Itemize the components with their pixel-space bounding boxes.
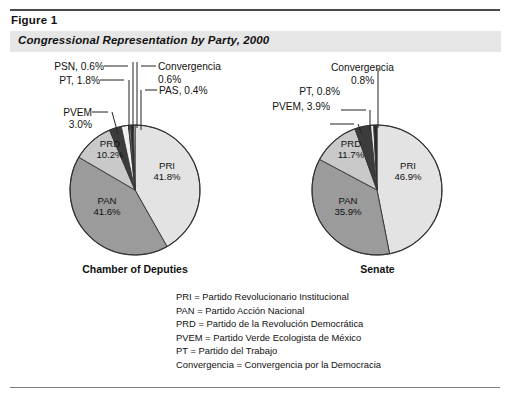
figure-container: Figure 1 Congressional Representation by… <box>0 0 509 400</box>
legend-item: PT = Partido del Trabajo <box>176 344 381 358</box>
slice-label-pri-senate: PRI 46.9% <box>381 161 435 182</box>
legend-list: PRI = Partido Revolucionario Institucion… <box>176 290 381 372</box>
slice-label-prd-senate: PRD 11.7% <box>325 139 377 160</box>
slice-name: PRI <box>400 160 416 171</box>
slice-value: 10.2% <box>96 149 123 160</box>
callout-convergencia-left-value: 0.6% <box>158 74 181 86</box>
chart-caption-chamber: Chamber of Deputies <box>60 263 210 275</box>
legend-item: PAN = Partido Acción Nacional <box>176 304 381 318</box>
slice-label-prd-left: PRD 10.2% <box>84 139 136 160</box>
slice-label-pan-senate: PAN 35.9% <box>320 196 376 217</box>
slice-value: 11.7% <box>338 149 365 160</box>
slice-name: PRD <box>341 138 361 149</box>
slice-name: PRI <box>159 160 175 171</box>
slice-value: 41.8% <box>153 171 180 182</box>
callout-pt-left: PT, 1.8% <box>20 75 100 87</box>
legend-item: PRD = Partido de la Revolución Democráti… <box>176 317 381 331</box>
slice-value: 46.9% <box>394 171 421 182</box>
callout-convergencia-senate-value: 0.8% <box>351 75 374 87</box>
legend-item: PRI = Partido Revolucionario Institucion… <box>176 290 381 304</box>
slice-label-pan-left: PAN 41.6% <box>79 196 135 217</box>
chart-caption-senate: Senate <box>305 263 450 275</box>
callout-pvem-senate: PVEM, 3.9% <box>240 101 330 113</box>
callout-pvem-left: PVEM <box>30 107 92 119</box>
callout-pt-senate: PT, 0.8% <box>262 86 340 98</box>
callout-convergencia-senate: Convergencia <box>331 62 394 74</box>
callout-psn-left: PSN, 0.6% <box>20 61 104 73</box>
callout-convergencia-left: Convergencia <box>158 61 221 73</box>
legend-item: Convergencia = Convergencia por la Democ… <box>176 358 381 372</box>
legend-item: PVEM = Partido Verde Ecologista de Méxic… <box>176 331 381 345</box>
bottom-divider <box>10 387 500 388</box>
slice-name: PRD <box>100 138 120 149</box>
callout-pvem-left-value: 3.0% <box>30 119 92 131</box>
slice-name: PAN <box>97 195 116 206</box>
slice-name: PAN <box>338 195 357 206</box>
callout-pas-left: PAS, 0.4% <box>159 85 208 97</box>
slice-value: 41.6% <box>93 206 120 217</box>
slice-label-pri-left: PRI 41.8% <box>140 161 194 182</box>
pie-slice-pri <box>377 125 442 254</box>
slice-value: 35.9% <box>334 206 361 217</box>
